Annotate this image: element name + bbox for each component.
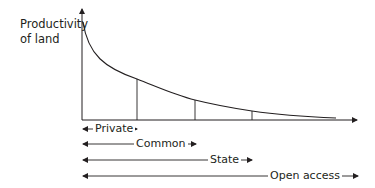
productivity-curve — [83, 22, 336, 118]
private-label: Private — [93, 123, 135, 135]
y-axis-label-line1: Productivity — [20, 17, 88, 32]
y-axis-label-line2: of land — [20, 32, 88, 47]
state-label: State — [208, 154, 241, 166]
y-axis-label: Productivity of land — [20, 17, 88, 47]
common-label: Common — [134, 138, 188, 150]
open-access-label: Open access — [268, 170, 342, 182]
